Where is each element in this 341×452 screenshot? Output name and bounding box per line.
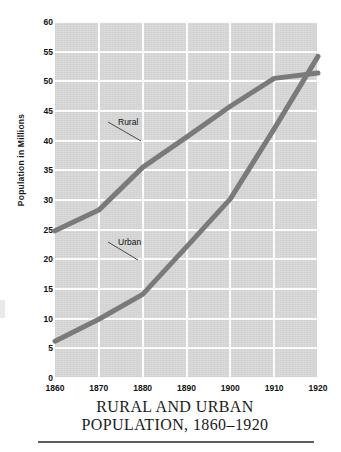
- x-tick-label: 1880: [121, 383, 165, 393]
- y-tick-label: 30: [13, 195, 53, 205]
- y-tick-label: 60: [13, 17, 53, 27]
- x-tick-label: 1920: [296, 383, 340, 393]
- y-tick-label: 55: [13, 47, 53, 57]
- caption-line-2: POPULATION, 1860–1920: [30, 416, 320, 434]
- x-tick-label: 1900: [208, 383, 252, 393]
- x-tick-label: 1860: [33, 383, 77, 393]
- y-tick-label: 25: [13, 225, 53, 235]
- y-tick-label: 5: [13, 343, 53, 353]
- y-tick-label: 50: [13, 76, 53, 86]
- line-urban: [55, 56, 318, 341]
- chart-caption: RURAL AND URBAN POPULATION, 1860–1920: [30, 398, 320, 434]
- y-tick-label: 0: [13, 373, 53, 383]
- series-lines: [55, 22, 318, 378]
- chart-figure: Population in Millions 05101520253035404…: [0, 0, 341, 452]
- plot-area: [55, 22, 318, 378]
- series-label-rural: Rural: [118, 117, 138, 127]
- y-tick-label: 20: [13, 254, 53, 264]
- y-tick-label: 45: [13, 106, 53, 116]
- y-tick-label: 10: [13, 314, 53, 324]
- series-label-urban: Urban: [118, 237, 141, 247]
- y-tick-label: 15: [13, 284, 53, 294]
- x-tick-label: 1870: [77, 383, 121, 393]
- scan-artifact: [0, 300, 5, 318]
- caption-line-1: RURAL AND URBAN: [30, 398, 320, 416]
- caption-divider: [38, 441, 314, 443]
- y-tick-label: 35: [13, 165, 53, 175]
- line-rural: [55, 73, 318, 231]
- x-tick-label: 1910: [252, 383, 296, 393]
- y-tick-label: 40: [13, 136, 53, 146]
- x-tick-label: 1890: [165, 383, 209, 393]
